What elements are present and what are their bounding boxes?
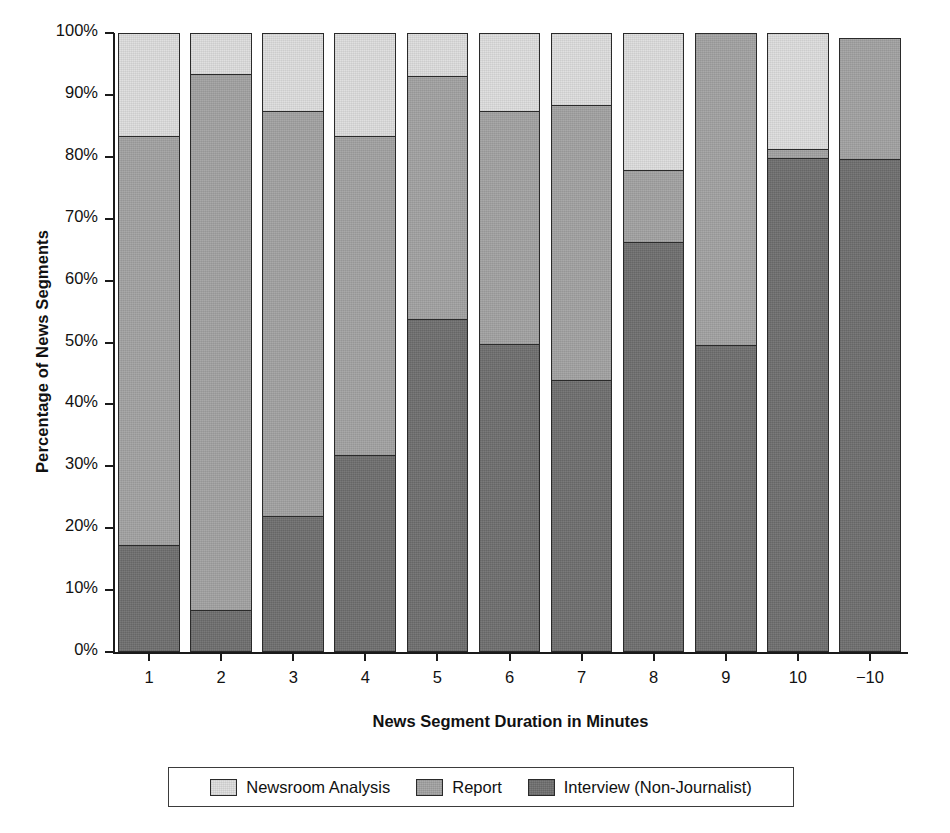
x-tick-mark	[220, 652, 222, 661]
x-tick-mark	[292, 652, 294, 661]
segment-interview-−10[interactable]	[840, 160, 900, 651]
y-tick-label: 90%	[0, 83, 98, 102]
segment-interview-8[interactable]	[624, 243, 684, 651]
segment-report-3[interactable]	[263, 112, 323, 516]
y-tick-label: 0%	[0, 640, 98, 659]
bar-3[interactable]	[262, 33, 324, 652]
segment-report-9[interactable]	[696, 33, 756, 346]
segment-report-1[interactable]	[119, 137, 179, 546]
x-tick-label: 6	[470, 668, 550, 687]
y-tick-label: 60%	[0, 269, 98, 288]
legend-swatch-newsroom-analysis-icon	[210, 779, 237, 796]
legend-swatch-interview-non-journalist-icon	[528, 779, 555, 796]
segment-report-−10[interactable]	[840, 38, 900, 160]
segment-newsroom-4[interactable]	[335, 33, 395, 137]
segment-report-8[interactable]	[624, 171, 684, 243]
segment-interview-4[interactable]	[335, 456, 395, 651]
legend-label-interview-non-journalist: Interview (Non-Journalist)	[564, 778, 752, 797]
x-tick-label: 2	[181, 668, 261, 687]
x-axis-title: News Segment Duration in Minutes	[113, 712, 908, 731]
x-axis-line	[113, 652, 908, 654]
segment-newsroom-7[interactable]	[552, 33, 612, 106]
segment-interview-3[interactable]	[263, 517, 323, 651]
x-tick-label: 3	[253, 668, 333, 687]
x-tick-label: 7	[542, 668, 622, 687]
segment-newsroom-1[interactable]	[119, 33, 179, 137]
stacked-bar-chart-figure: Percentage of News Segments 0%10%20%30%4…	[0, 0, 950, 833]
segment-report-6[interactable]	[480, 112, 540, 345]
y-tick-label: 80%	[0, 145, 98, 164]
x-tick-label: 5	[397, 668, 477, 687]
segment-report-5[interactable]	[408, 77, 468, 320]
x-tick-label: −10	[830, 668, 910, 687]
x-tick-mark	[436, 652, 438, 661]
segment-interview-5[interactable]	[408, 320, 468, 651]
bar-8[interactable]	[623, 33, 685, 652]
x-tick-label: 1	[109, 668, 189, 687]
legend-entry-report[interactable]: Report	[416, 778, 502, 797]
x-tick-mark	[581, 652, 583, 661]
plot-area	[113, 33, 906, 652]
segment-report-10[interactable]	[768, 150, 828, 159]
x-tick-label: 4	[325, 668, 405, 687]
x-tick-mark	[869, 652, 871, 661]
x-tick-mark	[148, 652, 150, 661]
y-tick-label: 100%	[0, 21, 98, 40]
legend-swatch-report-icon	[416, 779, 443, 796]
segment-interview-2[interactable]	[191, 611, 251, 651]
segment-newsroom-3[interactable]	[263, 33, 323, 112]
segment-newsroom-5[interactable]	[408, 33, 468, 77]
x-tick-label: 9	[686, 668, 766, 687]
segment-interview-10[interactable]	[768, 159, 828, 651]
bar-4[interactable]	[334, 33, 396, 652]
x-tick-mark	[364, 652, 366, 661]
segment-newsroom-10[interactable]	[768, 33, 828, 150]
y-tick-label: 10%	[0, 578, 98, 597]
segment-interview-6[interactable]	[480, 345, 540, 651]
segment-report-4[interactable]	[335, 137, 395, 456]
bar-5[interactable]	[407, 33, 469, 652]
bar-−10[interactable]	[839, 38, 901, 652]
legend-entry-newsroom-analysis[interactable]: Newsroom Analysis	[210, 778, 390, 797]
x-tick-mark	[653, 652, 655, 661]
segment-interview-1[interactable]	[119, 546, 179, 651]
segment-report-7[interactable]	[552, 106, 612, 380]
x-tick-label: 8	[614, 668, 694, 687]
segment-report-2[interactable]	[191, 75, 251, 611]
bar-2[interactable]	[190, 33, 252, 652]
y-tick-label: 30%	[0, 454, 98, 473]
legend-label-newsroom-analysis: Newsroom Analysis	[246, 778, 390, 797]
bar-9[interactable]	[695, 33, 757, 652]
x-tick-mark	[509, 652, 511, 661]
segment-newsroom-6[interactable]	[480, 33, 540, 112]
bar-7[interactable]	[551, 33, 613, 652]
segment-interview-7[interactable]	[552, 381, 612, 652]
x-tick-mark	[725, 652, 727, 661]
y-tick-label: 70%	[0, 207, 98, 226]
y-tick-label: 50%	[0, 331, 98, 350]
chart-legend: Newsroom AnalysisReportInterview (Non-Jo…	[168, 767, 794, 807]
bar-6[interactable]	[479, 33, 541, 652]
legend-entry-interview-non-journalist[interactable]: Interview (Non-Journalist)	[528, 778, 752, 797]
segment-interview-9[interactable]	[696, 346, 756, 651]
segment-newsroom-2[interactable]	[191, 33, 251, 75]
x-tick-label: 10	[758, 668, 838, 687]
bar-1[interactable]	[118, 33, 180, 652]
segment-newsroom-8[interactable]	[624, 33, 684, 171]
y-tick-label: 40%	[0, 392, 98, 411]
y-tick-label: 20%	[0, 516, 98, 535]
x-tick-mark	[797, 652, 799, 661]
bar-10[interactable]	[767, 33, 829, 652]
legend-label-report: Report	[452, 778, 502, 797]
